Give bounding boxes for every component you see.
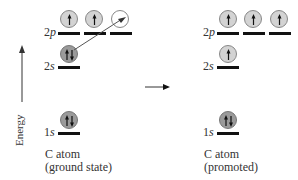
orbital-2s-half-filled — [219, 45, 237, 63]
level-label-1s: 1s — [203, 126, 214, 138]
orbital-2p-2-half-filled — [244, 10, 262, 28]
level-label-2s: 2s — [44, 60, 55, 72]
caption-ground-state: C atom (ground state) — [45, 148, 112, 174]
energy-axis-arrow-icon — [16, 44, 28, 104]
level-line-1s — [217, 132, 239, 135]
promotion-arrow-icon — [70, 14, 130, 54]
spin-pair-arrows-icon — [220, 112, 238, 130]
orbital-1s-full — [219, 111, 237, 129]
orbital-2p-3-half-filled — [270, 10, 288, 28]
spin-up-arrow-icon — [271, 11, 289, 29]
orbital-1s-full — [60, 111, 78, 129]
level-line-2p-3 — [269, 32, 291, 35]
level-label-2s: 2s — [203, 60, 214, 72]
level-label-1s: 1s — [44, 126, 55, 138]
level-line-2p-2 — [243, 32, 265, 35]
level-line-2p-1 — [217, 32, 239, 35]
spin-pair-arrows-icon — [61, 112, 79, 130]
level-line-1s — [58, 132, 80, 135]
level-line-2s — [58, 66, 80, 69]
level-label-2p: 2p — [203, 26, 215, 38]
energy-axis-label: Energy — [13, 114, 25, 146]
orbital-2p-1-half-filled — [219, 10, 237, 28]
level-label-2p: 2p — [44, 26, 56, 38]
spin-up-arrow-icon — [245, 11, 263, 29]
spin-up-arrow-icon — [220, 46, 238, 64]
caption-promoted: C atom (promoted) — [204, 148, 258, 174]
spin-up-arrow-icon — [220, 11, 238, 29]
transition-arrow-icon — [143, 82, 173, 92]
level-line-2s — [217, 66, 239, 69]
